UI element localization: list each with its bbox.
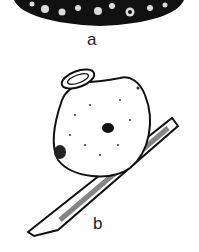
panel-label-a: a [87,31,96,48]
panel-label-b: b [93,215,102,232]
panel-a-illustration [0,0,199,30]
